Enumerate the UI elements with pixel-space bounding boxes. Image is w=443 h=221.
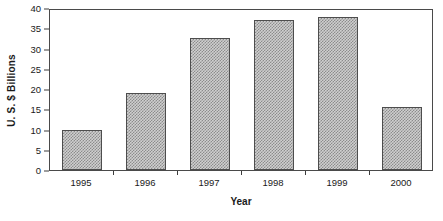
bar <box>254 20 294 170</box>
bar <box>382 107 422 170</box>
y-axis-tick-label: 0 <box>36 166 41 176</box>
bar <box>126 93 166 170</box>
y-axis-tick-labels: 0510152025303540 <box>22 9 44 171</box>
x-axis-tick-label: 1999 <box>326 177 347 188</box>
plot-area <box>49 9 433 171</box>
x-axis-tick-label: 1995 <box>70 177 91 188</box>
y-axis-tick-label: 20 <box>30 85 41 95</box>
x-axis-tick-label: 2000 <box>390 177 411 188</box>
y-axis-tick-label: 30 <box>30 45 41 55</box>
y-axis-tick-label: 35 <box>30 25 41 35</box>
bar <box>62 130 102 170</box>
x-axis-tick-label: 1998 <box>262 177 283 188</box>
x-axis-tick-marks <box>49 171 433 176</box>
x-axis-title: Year <box>49 196 433 207</box>
y-axis-title: U. S. $ Billions <box>0 0 22 180</box>
bar-chart: U. S. $ Billions 0510152025303540 199519… <box>0 0 443 221</box>
x-axis-tick-mark <box>177 171 178 175</box>
bars-container <box>50 10 432 170</box>
x-axis-tick-mark <box>305 171 306 175</box>
x-axis-tick-label: 1996 <box>134 177 155 188</box>
x-axis-tick-labels: 199519961997199819992000 <box>49 177 433 191</box>
x-axis-tick-mark <box>113 171 114 175</box>
y-axis-tick-label: 25 <box>30 65 41 75</box>
y-axis-tick-label: 40 <box>30 4 41 14</box>
x-axis-tick-mark <box>369 171 370 175</box>
y-axis-tick-label: 15 <box>30 106 41 116</box>
x-axis-tick-mark <box>241 171 242 175</box>
bar <box>318 17 358 170</box>
x-axis-tick-label: 1997 <box>198 177 219 188</box>
y-axis-tick-label: 10 <box>30 126 41 136</box>
y-axis-title-text: U. S. $ Billions <box>6 54 17 127</box>
y-axis-tick-label: 5 <box>36 146 41 156</box>
bar <box>190 38 230 170</box>
